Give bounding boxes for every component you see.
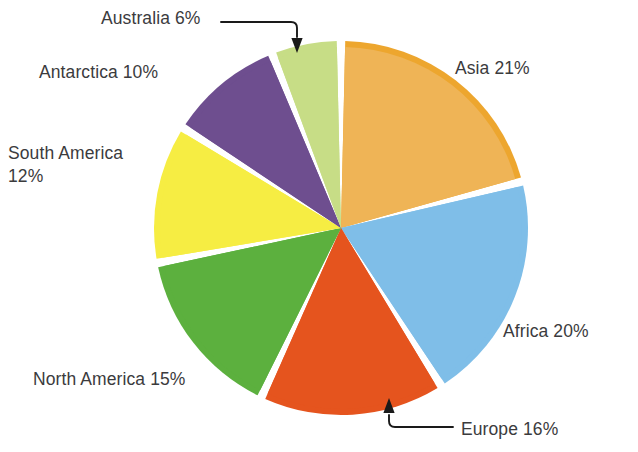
pie-chart-figure: Asia 21% Africa 20% Europe 16% North Ame… bbox=[0, 0, 638, 452]
slice-label-north-america: North America 15% bbox=[33, 368, 185, 391]
pie-slice-group bbox=[154, 41, 528, 415]
slice-label-antarctica: Antarctica 10% bbox=[39, 61, 158, 84]
slice-label-south-america: South America 12% bbox=[8, 142, 158, 188]
slice-label-africa: Africa 20% bbox=[503, 320, 589, 343]
slice-label-europe: Europe 16% bbox=[461, 418, 558, 441]
slice-label-australia: Australia 6% bbox=[101, 7, 200, 30]
slice-label-asia: Asia 21% bbox=[455, 57, 530, 80]
